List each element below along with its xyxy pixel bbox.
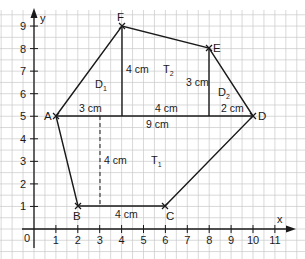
region-t1-label: T1	[151, 154, 162, 168]
point-f-label: F	[117, 11, 124, 23]
measure-mid-base: 4 cm	[155, 102, 178, 114]
y-tick-label: 9	[20, 20, 26, 32]
x-tick-label: 10	[247, 234, 259, 246]
diagram-canvas: x y 0 1234567891011 123456789 A B C D E …	[0, 0, 305, 259]
y-tick-label: 7	[20, 65, 26, 77]
point-a-label: A	[44, 110, 52, 122]
point-c-label: C	[166, 210, 174, 222]
x-tick-label: 1	[53, 234, 59, 246]
y-tick-labels: 123456789	[20, 20, 26, 212]
y-tick-label: 2	[20, 178, 26, 190]
x-tick-label: 6	[162, 234, 168, 246]
x-tick-label: 4	[119, 234, 125, 246]
x-tick-label: 8	[206, 234, 212, 246]
measure-e-height: 3 cm	[186, 76, 209, 88]
measure-af-base: 3 cm	[79, 102, 102, 114]
x-tick-label: 11	[269, 234, 280, 246]
y-tick-label: 8	[20, 43, 26, 55]
y-tick-label: 4	[20, 133, 26, 145]
x-tick-label: 9	[228, 234, 234, 246]
region-d1-label: D1	[95, 78, 107, 92]
measure-t1-height: 4 cm	[104, 154, 127, 166]
measure-f-height: 4 cm	[126, 63, 149, 75]
y-tick-label: 6	[20, 88, 26, 100]
y-axis-label: y	[40, 12, 46, 24]
x-tick-label: 7	[184, 234, 190, 246]
x-tick-label: 2	[75, 234, 81, 246]
region-d2-label: D2	[218, 86, 230, 100]
grid	[0, 10, 305, 259]
point-d-label: D	[258, 110, 266, 122]
origin-label: 0	[24, 232, 30, 244]
hexagon-area-diagram: x y 0 1234567891011 123456789 A B C D E …	[0, 0, 305, 259]
region-t2-label: T2	[163, 63, 174, 77]
measure-ad-total: 9 cm	[146, 118, 169, 130]
point-b-label: B	[73, 210, 81, 222]
x-tick-label: 3	[97, 234, 103, 246]
x-axis-label: x	[277, 213, 283, 225]
measure-ed-base: 2 cm	[221, 102, 244, 114]
y-tick-label: 1	[20, 200, 26, 212]
x-axis-arrow-icon	[286, 226, 296, 233]
x-tick-label: 5	[140, 234, 146, 246]
y-axis-arrow-icon	[31, 8, 38, 18]
y-tick-label: 3	[20, 155, 26, 167]
measure-bc-base: 4 cm	[115, 208, 138, 220]
point-e-label: E	[213, 42, 221, 54]
y-tick-label: 5	[20, 110, 26, 122]
